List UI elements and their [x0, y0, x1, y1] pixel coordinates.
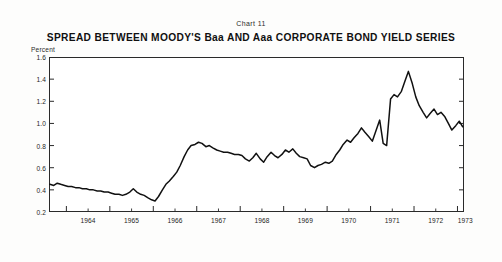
- y-tick-label: 1.0: [30, 120, 46, 127]
- y-tick-label: 0.6: [30, 164, 46, 171]
- x-tick-label: 1968: [254, 217, 269, 224]
- x-tick-label: 1970: [341, 217, 356, 224]
- plot-area: [49, 57, 464, 212]
- data-series-line: [50, 71, 463, 201]
- x-tick-label: 1973: [458, 217, 473, 224]
- x-tick-label: 1967: [211, 217, 226, 224]
- y-tick-label: 1.2: [30, 98, 46, 105]
- x-tick-label: 1969: [298, 217, 313, 224]
- x-tick-label: 1966: [167, 217, 182, 224]
- page-title: SPREAD BETWEEN MOODY'S Baa AND Aaa CORPO…: [0, 32, 502, 43]
- x-tick-label: 1964: [81, 217, 96, 224]
- y-tick-label: 0.4: [30, 186, 46, 193]
- y-tick-label: 1.6: [30, 54, 46, 61]
- x-tick-label: 1965: [124, 217, 139, 224]
- x-tick-label: 1972: [428, 217, 443, 224]
- x-axis-tick-labels: 1964196519661967196819691970197119721973: [49, 217, 464, 229]
- y-tick-label: 1.4: [30, 76, 46, 83]
- x-tick-label: 1971: [385, 217, 400, 224]
- y-axis-unit-label: Percent: [31, 46, 55, 53]
- y-tick-label: 0.8: [30, 142, 46, 149]
- spread-line-chart: [49, 57, 464, 212]
- chart-caption: Chart 11: [0, 20, 502, 27]
- y-axis-tick-labels: 1.61.41.21.00.80.60.40.2: [27, 57, 46, 212]
- page-background: Chart 11 SPREAD BETWEEN MOODY'S Baa AND …: [0, 0, 502, 262]
- y-tick-label: 0.2: [30, 209, 46, 216]
